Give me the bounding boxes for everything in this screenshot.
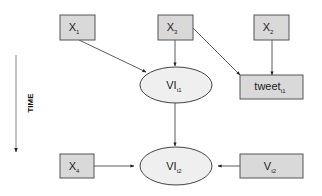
time-axis: TIME <box>16 55 35 152</box>
node-x1: X1 <box>60 15 95 40</box>
node-vi-t1: VIt1 <box>140 67 212 103</box>
node-x4: X4 <box>60 154 94 178</box>
edge-x1-to-vi-t1 <box>79 40 146 72</box>
node-v-t2: Vt2 <box>240 154 303 178</box>
edge-x3-to-tweet-t1 <box>193 28 240 75</box>
time-label: TIME <box>26 93 35 113</box>
node-vi-t2: VIt2 <box>140 147 212 185</box>
node-x2: X2 <box>254 15 289 40</box>
node-x3: X3 <box>158 15 193 40</box>
node-tweet-t1: tweett1 <box>240 75 303 99</box>
path-diagram: TIME X1 X3 X2 VIt1 tweett1 X4 <box>0 0 322 196</box>
